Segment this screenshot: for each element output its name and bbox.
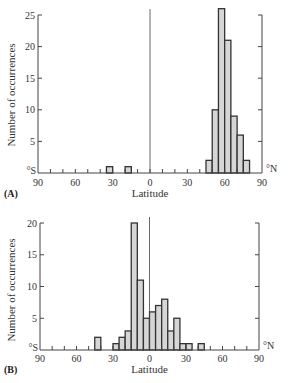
histogram-bar: [243, 160, 249, 173]
histogram-bar: [156, 306, 162, 350]
x-axis-title: Latitude: [131, 363, 168, 375]
panel-label: (A): [4, 188, 18, 200]
x-tick-label: 90: [254, 353, 264, 364]
x-tick-label: 90: [33, 177, 43, 188]
histogram-bar: [119, 337, 125, 350]
south-label: °S: [26, 165, 36, 176]
histogram-bars: [106, 9, 249, 173]
x-tick-label: 30: [108, 353, 118, 364]
histogram-bar: [225, 40, 231, 173]
y-tick-label: 10: [27, 281, 37, 292]
histogram-bar: [131, 223, 137, 350]
x-tick-label: 60: [72, 353, 82, 364]
histogram-bar: [237, 135, 243, 173]
x-tick-label: 30: [181, 353, 191, 364]
histogram-bar: [113, 344, 119, 350]
panel-label: (B): [4, 364, 17, 376]
histogram-bar: [137, 280, 143, 350]
histogram-bar: [186, 344, 192, 350]
histogram-bar: [125, 331, 131, 350]
south-label: °S: [28, 342, 38, 353]
x-tick-label: 90: [257, 177, 267, 188]
histogram-bar: [168, 331, 174, 350]
y-axis-title: Number of occurrences: [5, 43, 17, 146]
histogram-bar: [206, 160, 212, 173]
histogram-bar: [212, 110, 218, 173]
histogram-panel-a: 2520151059060300306090°S°NLatitudeNumber…: [4, 9, 277, 200]
x-tick-label: 90: [35, 353, 45, 364]
y-axis-title: Number of occurrences: [5, 238, 17, 341]
north-label: °N: [266, 163, 277, 174]
x-tick-label: 60: [218, 353, 228, 364]
histogram-panel-b: 20151059060300306090°S°NLatitudeNumber o…: [4, 217, 274, 376]
x-tick-label: 60: [70, 177, 80, 188]
y-tick-label: 15: [27, 249, 37, 260]
histogram-bar: [150, 312, 156, 350]
y-tick-label: 5: [32, 313, 37, 324]
y-tick-label: 15: [25, 73, 35, 84]
histogram-bar: [106, 167, 112, 173]
histogram-bar: [218, 9, 224, 173]
x-tick-label: 60: [220, 177, 230, 188]
histogram-bar: [231, 116, 237, 173]
histogram-bar: [125, 167, 131, 173]
y-tick-label: 20: [25, 41, 35, 52]
north-label: °N: [263, 340, 274, 351]
latitude-histograms: 2520151059060300306090°S°NLatitudeNumber…: [0, 0, 288, 383]
y-tick-label: 25: [25, 10, 35, 21]
x-tick-label: 30: [108, 177, 118, 188]
y-tick-label: 20: [27, 218, 37, 229]
histogram-bar: [180, 344, 186, 350]
y-tick-label: 10: [25, 104, 35, 115]
x-axis-title: Latitude: [132, 187, 169, 199]
histogram-bar: [198, 344, 204, 350]
histogram-bar: [162, 299, 168, 350]
x-tick-label: 30: [182, 177, 192, 188]
y-tick-label: 5: [30, 136, 35, 147]
histogram-bar: [95, 337, 101, 350]
histogram-bar: [143, 318, 149, 350]
histogram-bar: [174, 318, 180, 350]
